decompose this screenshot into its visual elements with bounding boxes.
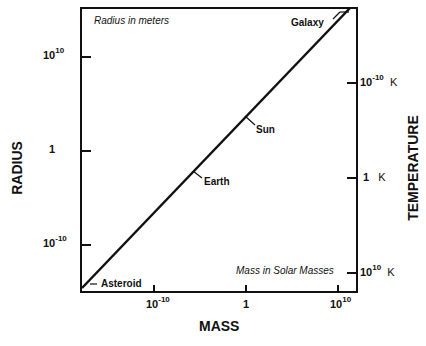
x-tick-label: 10-10 — [146, 298, 170, 310]
y-tick-label: 10-10 — [43, 237, 67, 249]
radius-mass-line — [82, 8, 350, 288]
y-tick-label: 1 — [49, 143, 55, 155]
point-label-earth: Earth — [204, 176, 230, 187]
x-tick-label: 1010 — [330, 298, 351, 310]
x-unit-note: Mass in Solar Masses — [236, 265, 334, 276]
y2-tick-label: 1 K — [363, 171, 386, 183]
point-label-asteroid: Asteroid — [101, 278, 142, 289]
y-unit-note: Radius in meters — [94, 15, 169, 26]
y-tick-label: 1010 — [43, 49, 64, 61]
point-label-galaxy: Galaxy — [291, 17, 324, 28]
y2-tick-label: 10-10 K — [360, 76, 397, 88]
y2-tick-label: 1010 K — [360, 266, 395, 278]
y-axis-title: RADIUS — [9, 141, 25, 195]
x-tick-label: 1 — [243, 298, 249, 310]
point-label-sun: Sun — [256, 124, 275, 135]
plot-frame — [81, 8, 357, 292]
x-axis-title: MASS — [199, 318, 239, 334]
y2-axis-title: TEMPERATURE — [405, 115, 421, 221]
